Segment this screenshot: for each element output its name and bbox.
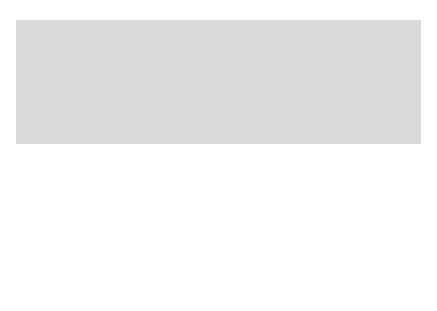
map-canvas [0,0,437,311]
